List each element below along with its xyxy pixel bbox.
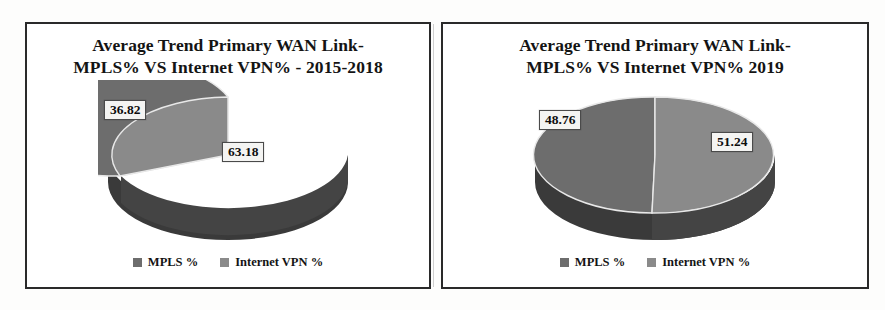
data-label-mpls-2019: 48.76 (539, 110, 581, 130)
legend-swatch-mpls-icon (560, 258, 569, 267)
chart-title-2019: Average Trend Primary WAN Link- MPLS% VS… (443, 34, 867, 78)
legend-item-internet-vpn-left[interactable]: Internet VPN % (220, 256, 323, 269)
legend-2019: MPLS % Internet VPN % (443, 256, 867, 269)
figure-root: Average Trend Primary WAN Link- MPLS% VS… (0, 0, 885, 310)
plot-area-2015-2018: 36.82 63.18 (27, 80, 429, 250)
panel-separator-rule (433, 24, 434, 287)
chart-title-line-2: MPLS% VS Internet VPN% - 2015-2018 (39, 56, 417, 78)
chart-title-line-2: MPLS% VS Internet VPN% 2019 (455, 56, 855, 78)
chart-panel-2015-2018: Average Trend Primary WAN Link- MPLS% VS… (25, 22, 431, 289)
legend-label-mpls-left: MPLS % (148, 256, 198, 269)
chart-title-line-1: Average Trend Primary WAN Link- (39, 34, 417, 56)
legend-swatch-internet-vpn-icon (647, 258, 656, 267)
legend-2015-2018: MPLS % Internet VPN % (27, 256, 429, 269)
data-label-internet-vpn-2019: 51.24 (711, 132, 753, 152)
data-label-mpls-2015-2018: 36.82 (104, 100, 146, 120)
pie-svg-2019 (525, 80, 785, 240)
legend-swatch-internet-vpn-icon (220, 258, 229, 267)
legend-label-internet-vpn-left: Internet VPN % (235, 256, 323, 269)
legend-item-mpls-left[interactable]: MPLS % (133, 256, 198, 269)
pie-chart-2015-2018: 36.82 63.18 (98, 80, 358, 240)
legend-label-internet-vpn-right: Internet VPN % (662, 256, 750, 269)
chart-title-2015-2018: Average Trend Primary WAN Link- MPLS% VS… (27, 34, 429, 78)
pie-chart-2019: 48.76 51.24 (525, 80, 785, 240)
legend-label-mpls-right: MPLS % (575, 256, 625, 269)
legend-item-mpls-right[interactable]: MPLS % (560, 256, 625, 269)
legend-item-internet-vpn-right[interactable]: Internet VPN % (647, 256, 750, 269)
chart-panel-2019: Average Trend Primary WAN Link- MPLS% VS… (441, 22, 869, 289)
data-label-internet-vpn-2015-2018: 63.18 (222, 142, 264, 162)
legend-swatch-mpls-icon (133, 258, 142, 267)
plot-area-2019: 48.76 51.24 (443, 80, 867, 250)
chart-title-line-1: Average Trend Primary WAN Link- (455, 34, 855, 56)
